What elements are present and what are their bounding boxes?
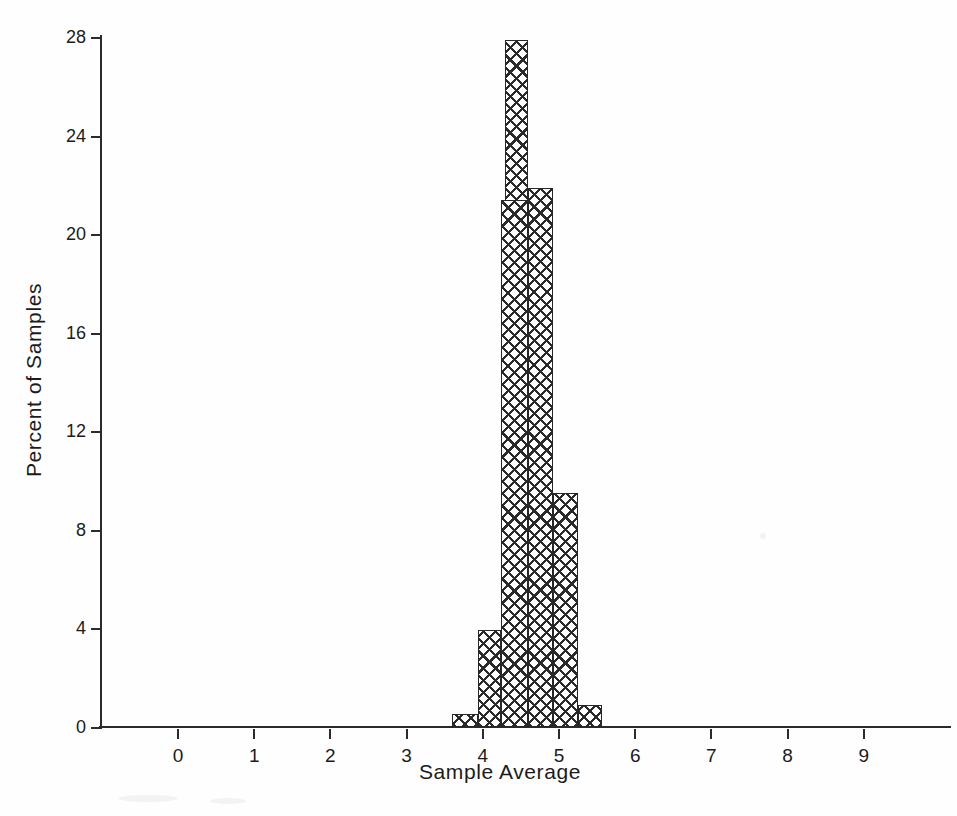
histogram-bar <box>578 705 602 727</box>
scan-artifact <box>118 795 178 802</box>
histogram-bar <box>478 630 501 727</box>
histogram-figure: Percent of Samples 0481216202428 0123456… <box>0 0 957 816</box>
x-axis-title: Sample Average <box>100 760 900 784</box>
histogram-bar <box>452 714 478 727</box>
histogram-bars <box>0 0 957 816</box>
histogram-bar <box>528 188 553 727</box>
scan-artifact <box>760 533 766 539</box>
histogram-bar <box>501 200 528 727</box>
histogram-bar <box>553 493 578 727</box>
scan-artifact <box>210 798 246 804</box>
